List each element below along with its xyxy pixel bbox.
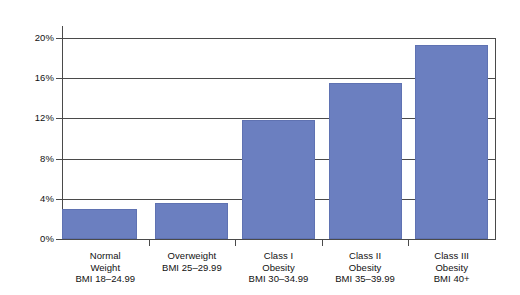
x-axis-category-label: Class IIIObesityBMI 40+ (408, 250, 495, 285)
x-axis-category-label: Class IObesityBMI 30–34.99 (235, 250, 322, 285)
bar (155, 203, 228, 239)
x-axis-category-label-line: Class I (235, 250, 322, 262)
x-axis-category-label-line: BMI 25–29.99 (149, 262, 236, 274)
x-axis-category-label-line: Obesity (408, 262, 495, 274)
x-axis-tick (322, 239, 323, 246)
x-axis-category-label-line: Overweight (149, 250, 236, 262)
x-axis-category-label-line: Weight (62, 262, 149, 274)
x-axis-category-label-line: Obesity (235, 262, 322, 274)
y-axis-tick-label: 16% (35, 73, 54, 83)
x-axis-category-label: OverweightBMI 25–29.99 (149, 250, 236, 273)
y-axis-tick-label: 8% (40, 154, 54, 164)
x-axis-tick (149, 239, 150, 246)
y-axis-tick-label: 20% (35, 33, 54, 43)
x-axis-category-label: Class IIObesityBMI 35–39.99 (322, 250, 409, 285)
bar (242, 120, 315, 239)
x-axis-tick (235, 239, 236, 246)
y-axis-tick-label: 0% (40, 234, 54, 244)
x-axis-category-label-line: BMI 35–39.99 (322, 273, 409, 285)
x-axis-category-label: NormalWeightBMI 18–24.99 (62, 250, 149, 285)
y-axis-tick-label: 4% (40, 194, 54, 204)
x-axis-category-label-line: Normal (62, 250, 149, 262)
bars-group (62, 38, 495, 239)
x-axis-line (62, 239, 496, 240)
bar-chart: 0%4%8%12%16%20% NormalWeightBMI 18–24.99… (0, 0, 520, 295)
x-axis-category-label-line: BMI 40+ (408, 273, 495, 285)
x-axis-category-label-line: BMI 18–24.99 (62, 273, 149, 285)
x-axis-category-label-line: Class III (408, 250, 495, 262)
bar (329, 83, 402, 239)
bar (62, 209, 137, 239)
x-axis-category-label-line: BMI 30–34.99 (235, 273, 322, 285)
x-axis-tick (408, 239, 409, 246)
y-axis-tick-label: 12% (35, 113, 54, 123)
right-axis-line (495, 38, 496, 240)
x-axis-category-label-line: Class II (322, 250, 409, 262)
bar (415, 45, 488, 239)
x-axis-category-label-line: Obesity (322, 262, 409, 274)
